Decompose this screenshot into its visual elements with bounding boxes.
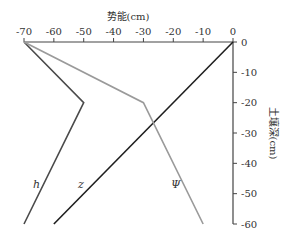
x-axis: -70-60-50-40-30-20-100	[16, 26, 236, 42]
svg-text:-70: -70	[16, 26, 32, 37]
series-lines	[24, 42, 233, 224]
svg-text:-10: -10	[241, 67, 257, 78]
svg-text:0: 0	[241, 37, 247, 48]
svg-text:-40: -40	[241, 158, 257, 169]
svg-text:-20: -20	[165, 26, 181, 37]
svg-text:-50: -50	[76, 26, 92, 37]
x-axis-title: 势能(cm)	[107, 10, 150, 22]
svg-text:-40: -40	[106, 26, 122, 37]
label-h: h	[33, 178, 40, 191]
label-psi: Ψ	[171, 178, 181, 191]
svg-text:-50: -50	[241, 188, 257, 199]
series-z	[54, 42, 233, 224]
y-axis-title: 土壤深(cm)	[268, 107, 280, 160]
svg-text:-30: -30	[135, 26, 151, 37]
svg-text:-60: -60	[241, 219, 257, 230]
svg-text:0: 0	[230, 26, 236, 37]
y-axis: 0-10-20-30-40-50-60	[233, 37, 257, 230]
label-z: z	[77, 178, 84, 191]
svg-text:-30: -30	[241, 128, 257, 139]
svg-text:-20: -20	[241, 97, 257, 108]
svg-text:-60: -60	[46, 26, 62, 37]
chart: 势能(cm) -70-60-50-40-30-20-100 0-10-20-30…	[0, 0, 281, 241]
series-h	[24, 42, 84, 224]
svg-text:-10: -10	[195, 26, 211, 37]
